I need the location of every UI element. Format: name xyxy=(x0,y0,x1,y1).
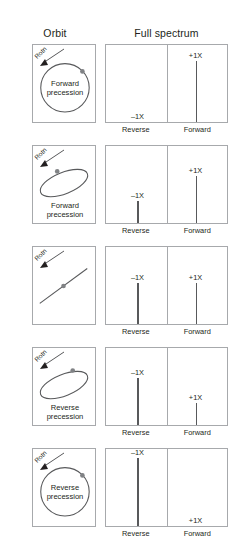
figure-row: Rotn Reverseprecession –1X +1X Reverse F… xyxy=(0,448,240,545)
spectrum-peak-pos-1x xyxy=(196,61,198,122)
peak-label-neg-1x: –1X xyxy=(131,191,144,200)
spectrum-panel: –1X +1X xyxy=(105,347,228,426)
orbit-precession-label: Reverseprecession xyxy=(33,483,97,501)
figure-row: Rotn Reverseprecession –1X +1X Reverse F… xyxy=(0,347,240,448)
orbit-panel: Rotn Forwardprecession xyxy=(32,44,96,123)
spectrum-center-divider xyxy=(167,45,168,122)
peak-label-pos-1x: +1X xyxy=(189,51,202,60)
axis-label-reverse: Reverse xyxy=(122,226,150,235)
spectrum-center-divider xyxy=(167,247,168,324)
spectrum-panel: –1X +1X xyxy=(105,145,228,224)
spectrum-peak-neg-1x xyxy=(137,458,139,526)
axis-label-forward: Forward xyxy=(184,327,211,336)
orbit-precession-label: Forwardprecession xyxy=(33,201,97,219)
axis-label-reverse: Reverse xyxy=(122,428,150,437)
axis-label-forward: Forward xyxy=(184,428,211,437)
spectrum-center-divider xyxy=(167,146,168,223)
orbit-panel: Rotn Reverseprecession xyxy=(32,347,96,426)
orbit-panel: Rotn Reverseprecession xyxy=(32,448,96,527)
axis-label-forward: Forward xyxy=(184,125,211,134)
peak-label-pos-1x: +1X xyxy=(189,166,202,175)
peak-label-neg-1x: –1X xyxy=(131,368,144,377)
spectrum-peak-neg-1x xyxy=(137,201,139,223)
figure-root: Orbit Full spectrum Rotn Forwardprecessi… xyxy=(0,0,240,545)
figure-row: Rotn Forwardprecession –1X +1X Reverse F… xyxy=(0,44,240,145)
orbit-panel: Rotn xyxy=(32,246,96,325)
peak-label-pos-1x: +1X xyxy=(189,516,202,525)
peak-label-neg-1x: –1X xyxy=(131,273,144,282)
orbit-diagram-line xyxy=(33,247,95,324)
column-header-full-spectrum: Full spectrum xyxy=(105,27,228,39)
spectrum-center-divider xyxy=(167,449,168,526)
axis-label-reverse: Reverse xyxy=(122,529,150,538)
spectrum-peak-neg-1x xyxy=(137,378,139,425)
figure-row: Rotn –1X +1X Reverse Forward xyxy=(0,246,240,347)
axis-label-forward: Forward xyxy=(184,226,211,235)
orbit-precession-label: Forwardprecession xyxy=(33,79,97,97)
spectrum-panel: –1X +1X xyxy=(105,448,228,527)
peak-label-pos-1x: +1X xyxy=(189,393,202,402)
spectrum-center-divider xyxy=(167,348,168,425)
axis-label-reverse: Reverse xyxy=(122,125,150,134)
axis-label-forward: Forward xyxy=(184,529,211,538)
figure-row: Rotn Forwardprecession –1X +1X Reverse F… xyxy=(0,145,240,246)
spectrum-panel: –1X +1X xyxy=(105,44,228,123)
spectrum-peak-pos-1x xyxy=(196,176,198,223)
orbit-panel: Rotn Forwardprecession xyxy=(32,145,96,224)
orbit-precession-label: Reverseprecession xyxy=(33,403,97,421)
peak-label-neg-1x: –1X xyxy=(131,448,144,457)
spectrum-peak-pos-1x xyxy=(196,283,198,324)
spectrum-peak-neg-1x xyxy=(137,283,139,324)
spectrum-panel: –1X +1X xyxy=(105,246,228,325)
peak-label-neg-1x: –1X xyxy=(131,112,144,121)
spectrum-peak-pos-1x xyxy=(196,403,198,425)
axis-label-reverse: Reverse xyxy=(122,327,150,336)
column-header-orbit: Orbit xyxy=(14,27,96,39)
peak-label-pos-1x: +1X xyxy=(189,273,202,282)
